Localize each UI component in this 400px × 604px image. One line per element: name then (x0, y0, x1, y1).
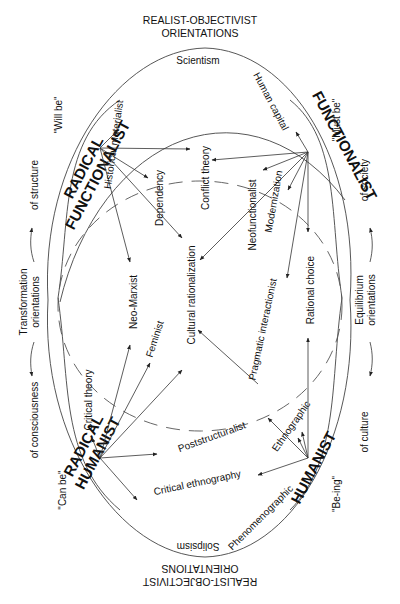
phenomenographic-label: Phenomenographic (226, 483, 295, 552)
poststructuralist-label: Poststructuralist (176, 419, 247, 454)
transformation-up-arrow-icon (31, 228, 34, 262)
scientism-label: Scientism (176, 55, 219, 66)
top-header-line2: ORIENTATIONS (161, 27, 238, 39)
of-structure-label: of structure (29, 160, 40, 210)
equilibrium-up-arrow-icon (370, 228, 372, 262)
bottom-header-line2: ORIENTATIONS (161, 563, 238, 575)
dependency-label: Dependency (154, 170, 165, 226)
human-capital-label: Human capital (251, 71, 291, 133)
svg-text:Equilibrium: Equilibrium (354, 275, 365, 324)
of-society-label: of society (359, 159, 370, 201)
be-ing-label: "Be-ing" (331, 476, 342, 512)
conflict-theory-label: Conflict theory (200, 146, 211, 210)
critical-theory-label: Critical theory (83, 369, 94, 430)
modernization-label: Modernization (263, 170, 285, 234)
neo-marxist-label: Neo-Marxist (128, 275, 139, 329)
solipsism-label: Solipsism (177, 541, 220, 552)
cultural-rationalization-label: Cultural rationalization (186, 246, 197, 345)
svg-text:orientations: orientations (366, 274, 377, 326)
of-consciousness-label: of consciousness (29, 382, 40, 459)
feminist-label: Feminist (144, 319, 166, 359)
paradigm-diagram: REALIST-OBJECTIVIST ORIENTATIONS Scienti… (0, 0, 400, 604)
will-be-label: "Will be" (53, 96, 64, 134)
can-be-label: "Can be" (57, 470, 68, 510)
must-be-label: "Must be" (331, 98, 342, 141)
rational-choice-label: Rational choice (305, 255, 316, 324)
critical-ethnography-label: Critical ethnography (153, 468, 242, 497)
top-header-line1: REALIST-OBJECTIVIST (143, 14, 258, 26)
transformation-orientations-label: Transformation orientations (18, 269, 41, 336)
svg-text:Transformation: Transformation (18, 269, 29, 336)
transformation-down-arrow-icon (31, 342, 34, 376)
pragmatic-interactionist-label: Pragmatic interactionist (246, 277, 278, 381)
equilibrium-down-arrow-icon (370, 342, 372, 376)
inner-dashed-circle (58, 181, 342, 431)
neofunctionalist-label: Neofunctionalist (247, 179, 258, 250)
equilibrium-orientations-label: Equilibrium orientations (354, 274, 377, 326)
of-culture-label: of culture (359, 411, 370, 453)
svg-text:orientations: orientations (30, 276, 41, 328)
bottom-header-line1: REALIST-OBJECTIVIST (142, 576, 257, 588)
